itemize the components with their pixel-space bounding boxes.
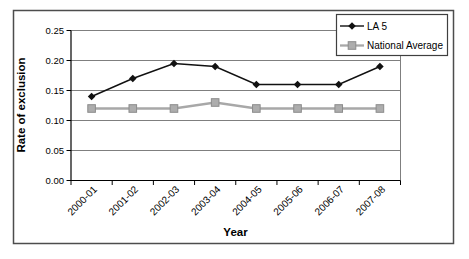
data-point-national-average bbox=[88, 105, 96, 113]
chart-canvas: 0.000.050.100.150.200.252000-012001-0220… bbox=[0, 0, 469, 259]
y-tick-label: 0.10 bbox=[46, 115, 65, 126]
y-tick-label: 0.05 bbox=[46, 145, 65, 156]
data-point-national-average bbox=[376, 105, 384, 113]
data-point-national-average bbox=[170, 105, 178, 113]
x-axis-title: Year bbox=[223, 226, 248, 238]
y-tick-label: 0.00 bbox=[46, 175, 65, 186]
legend-item-label: National Average bbox=[367, 40, 443, 51]
legend-item-label: LA 5 bbox=[367, 21, 387, 32]
y-tick-label: 0.15 bbox=[46, 85, 65, 96]
data-point-national-average bbox=[211, 99, 219, 107]
data-point-national-average bbox=[129, 105, 137, 113]
data-point-national-average bbox=[294, 105, 302, 113]
legend: LA 5National Average bbox=[337, 15, 448, 56]
legend-marker-square bbox=[348, 42, 356, 50]
data-point-national-average bbox=[335, 105, 343, 113]
data-point-national-average bbox=[253, 105, 261, 113]
y-tick-label: 0.25 bbox=[46, 25, 65, 36]
y-axis-title: Rate of exclusion bbox=[15, 57, 27, 152]
y-tick-label: 0.20 bbox=[46, 55, 65, 66]
exclusion-rate-line-chart: 0.000.050.100.150.200.252000-012001-0220… bbox=[0, 0, 469, 259]
